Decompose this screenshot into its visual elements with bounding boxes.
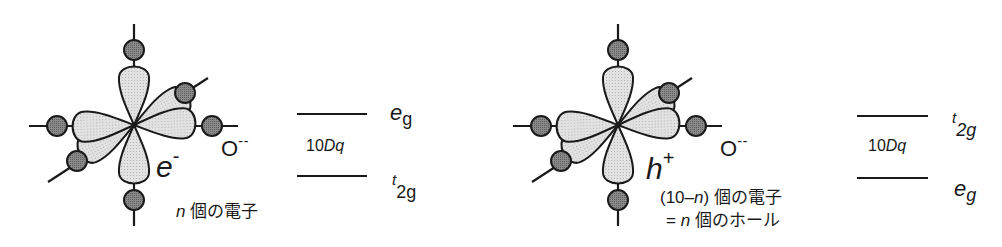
text: ) 個の電子 bbox=[704, 188, 782, 207]
level-symbol: e bbox=[954, 176, 966, 201]
text: (10– bbox=[660, 188, 694, 207]
right-eg-label: eg bbox=[954, 178, 976, 204]
hole-symbol: h bbox=[646, 152, 663, 185]
ion-symbol: O bbox=[221, 136, 238, 161]
ion-charge: -- bbox=[238, 133, 249, 149]
level-subscript: 2g bbox=[396, 182, 416, 202]
left-gap-label: 10Dq bbox=[306, 138, 344, 154]
electron-charge: - bbox=[173, 145, 180, 167]
count-variable: n bbox=[681, 211, 690, 230]
gap-variable: Dq bbox=[324, 137, 344, 154]
gap-variable: Dq bbox=[886, 137, 906, 154]
level-subscript: g bbox=[966, 185, 976, 205]
text: 個のホール bbox=[690, 211, 780, 230]
gap-number: 10 bbox=[868, 137, 886, 154]
left-oxygen-label: O-- bbox=[221, 134, 249, 160]
count-variable: n bbox=[694, 188, 703, 207]
right-gap-label: 10Dq bbox=[868, 138, 906, 154]
level-symbol: e bbox=[390, 100, 402, 125]
level-subscript: 2g bbox=[956, 120, 976, 140]
right-oxygen-label: O-- bbox=[720, 134, 748, 160]
ion-symbol: O bbox=[720, 136, 737, 161]
left-octahedron bbox=[29, 24, 238, 226]
text: = bbox=[666, 211, 681, 230]
right-carrier-label: h+ bbox=[646, 148, 674, 184]
count-text: 個の電子 bbox=[185, 202, 258, 221]
level-subscript: g bbox=[402, 109, 412, 129]
left-t2g-label: t2g bbox=[392, 172, 416, 201]
crystal-field-diagram bbox=[0, 0, 1002, 247]
left-eg-label: eg bbox=[390, 102, 412, 128]
left-count-note: n 個の電子 bbox=[176, 203, 258, 220]
right-count-line1: (10–n) 個の電子 bbox=[660, 189, 782, 206]
right-count-line2: = n 個のホール bbox=[666, 212, 780, 229]
ion-charge: -- bbox=[737, 133, 748, 149]
left-carrier-label: e- bbox=[156, 146, 179, 182]
gap-number: 10 bbox=[306, 137, 324, 154]
hole-charge: + bbox=[663, 147, 675, 169]
right-t2g-label: t2g bbox=[952, 110, 976, 139]
electron-symbol: e bbox=[156, 150, 173, 183]
